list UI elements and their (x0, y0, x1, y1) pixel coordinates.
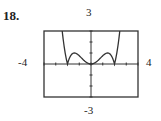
graph-plot (0, 0, 161, 121)
